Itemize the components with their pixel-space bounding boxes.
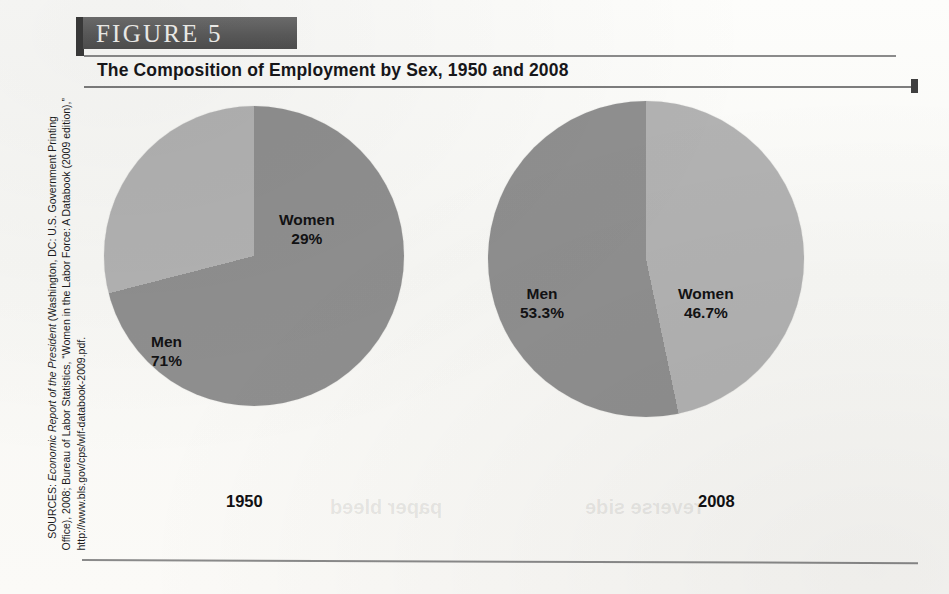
- slice-label-women-2008: Women 46.7%: [678, 284, 734, 322]
- slice-label-men-2008: Men 53.3%: [520, 284, 564, 322]
- slice-name: Men: [151, 332, 182, 351]
- sources-title-italic: Economic Report of the President: [47, 324, 59, 481]
- slice-name: Women: [678, 284, 734, 303]
- sources-prefix: SOURCES:: [47, 481, 59, 539]
- pie-graphic-2008: [488, 101, 804, 417]
- title-rule-bottom: [84, 86, 913, 88]
- chart-year-label-1950: 1950: [226, 492, 263, 511]
- title-rule-top: [84, 55, 896, 57]
- figure-title: The Composition of Employment by Sex, 19…: [97, 60, 569, 81]
- title-end-marker: [911, 79, 918, 93]
- slice-value: 53.3%: [520, 303, 564, 322]
- slice-name: Women: [279, 210, 335, 229]
- chart-year-label-2008: 2008: [698, 492, 735, 511]
- pie-chart-1950: Women 29% Men 71% 1950: [104, 92, 404, 392]
- slice-label-women-1950: Women 29%: [279, 210, 335, 248]
- slice-value: 71%: [151, 351, 182, 370]
- pie-chart-2008: Men 53.3% Women 46.7% 2008: [488, 92, 804, 408]
- bottom-rule: [82, 559, 918, 564]
- slice-label-men-1950: Men 71%: [151, 332, 182, 370]
- pie-graphic-1950: [104, 106, 404, 406]
- figure-page: FIGURE 5 The Composition of Employment b…: [0, 0, 949, 594]
- figure-number-label: FIGURE 5: [96, 19, 223, 48]
- slice-value: 46.7%: [678, 303, 734, 322]
- slice-name: Men: [520, 284, 564, 303]
- charts-container: Women 29% Men 71% 1950 Men 53.3% Women 4…: [84, 92, 914, 532]
- slice-value: 29%: [279, 229, 335, 248]
